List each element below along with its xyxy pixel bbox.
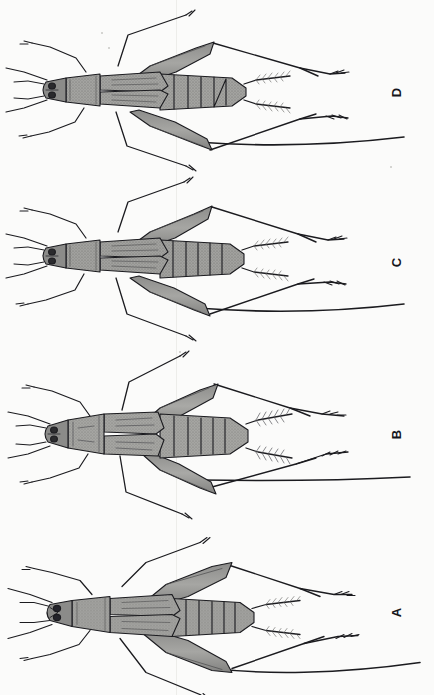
head — [47, 601, 72, 627]
tegmen-forewing — [104, 434, 164, 456]
hind-tibia — [213, 43, 318, 76]
tarsus — [326, 115, 347, 119]
cercus — [252, 627, 300, 635]
eye — [49, 249, 56, 255]
hind-tibia — [230, 566, 320, 597]
antenna — [6, 100, 47, 112]
hind-femur — [130, 110, 212, 150]
antenna — [6, 266, 47, 278]
pronotum — [66, 240, 100, 272]
maxillary-palp — [14, 81, 44, 84]
tegmen-forewing — [100, 238, 168, 258]
maxillary-palp — [14, 262, 44, 265]
panel-label-b: B — [390, 427, 403, 443]
hind-tibia — [212, 207, 316, 242]
maxillary-palp — [20, 621, 50, 623]
pronotum — [72, 597, 110, 633]
specimen-a — [0, 520, 434, 695]
hind-femur — [142, 452, 216, 494]
antenna — [6, 68, 47, 80]
fore-leg — [34, 387, 90, 416]
antenna — [8, 589, 52, 603]
fore-leg — [32, 631, 90, 659]
cricket-body-c — [6, 177, 404, 341]
abdomen — [172, 599, 254, 637]
tegmen-forewing — [100, 256, 168, 274]
panel-label-d: D — [390, 85, 403, 101]
antenna — [6, 234, 47, 246]
cercus — [244, 100, 290, 108]
antenna — [200, 477, 410, 481]
cercus — [242, 242, 288, 250]
fore-leg — [32, 43, 86, 72]
cercus — [242, 268, 288, 276]
eye — [49, 92, 56, 98]
specimen-b — [0, 344, 434, 524]
mid-leg — [122, 356, 180, 410]
eye — [53, 614, 60, 620]
tegmen-forewing — [100, 72, 168, 92]
pronotum — [68, 414, 104, 454]
tegmen-forewing — [100, 90, 168, 108]
specimen-d — [0, 0, 434, 180]
maxillary-palp — [16, 425, 46, 428]
antenna — [8, 625, 52, 639]
maxillary-palp — [14, 247, 44, 250]
abdomen — [160, 74, 246, 110]
cricket-illustration-plate: D C B A — [0, 0, 434, 695]
hind-tibia — [214, 384, 310, 416]
cricket-body-b — [8, 351, 410, 519]
abdomen — [160, 414, 248, 458]
eye — [51, 436, 58, 442]
tegmen-forewing — [110, 615, 180, 637]
tegmen-forewing — [110, 595, 180, 617]
antenna — [196, 137, 404, 145]
cricket-body-d — [6, 10, 404, 171]
maxillary-palp — [16, 442, 46, 445]
specimen-c — [0, 172, 434, 352]
pronotum — [66, 74, 100, 106]
panel-label-a: A — [390, 605, 403, 621]
antenna — [8, 446, 50, 458]
tegmen-forewing — [104, 412, 164, 434]
cercus — [244, 76, 290, 84]
eye — [49, 83, 56, 89]
maxillary-palp — [14, 96, 44, 99]
antenna — [8, 412, 50, 424]
maxillary-palp — [20, 603, 50, 607]
cricket-body-a — [8, 538, 420, 695]
fore-leg — [32, 210, 86, 238]
eye — [49, 258, 56, 264]
fore-leg — [34, 569, 92, 595]
fore-leg — [28, 274, 84, 304]
cercus-setae — [256, 71, 290, 113]
fore-leg — [31, 108, 84, 136]
eye — [51, 427, 58, 433]
cercus — [252, 601, 300, 609]
cercus-setae — [256, 408, 290, 464]
hind-femur — [130, 276, 210, 316]
fore-leg — [32, 454, 88, 482]
hind-femur — [144, 631, 232, 673]
hind-tibia — [232, 637, 324, 669]
panel-label-c: C — [390, 255, 403, 271]
